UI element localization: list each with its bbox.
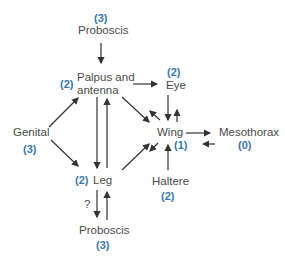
wing-level: (1) xyxy=(174,139,187,152)
palpus-label-line1: Palpus and xyxy=(77,71,135,84)
genital-level: (3) xyxy=(23,143,36,156)
palpus-level: (2) xyxy=(60,78,73,91)
wing-label: Wing xyxy=(157,126,183,139)
arrow-genital-to-palpus xyxy=(49,98,78,127)
leg-level: (2) xyxy=(75,174,88,187)
haltere-level: (2) xyxy=(161,190,174,203)
arrow-palpus-to-wing xyxy=(122,97,149,122)
arrow-wing-to-leg xyxy=(150,143,158,151)
eye-level: (2) xyxy=(167,66,180,79)
proboscis-bottom-label: Proboscis xyxy=(79,224,130,237)
arrow-genital-to-leg xyxy=(51,140,78,166)
mesothorax-label: Mesothorax xyxy=(219,126,279,139)
proboscis-top-label: Proboscis xyxy=(78,24,129,37)
proboscis-bottom-level: (3) xyxy=(96,239,109,252)
arrow-leg-to-wing xyxy=(122,144,149,170)
question-mark: ? xyxy=(84,198,90,211)
genital-label: Genital xyxy=(13,126,49,139)
eye-label: Eye xyxy=(166,79,186,92)
mesothorax-level: (0) xyxy=(238,139,251,152)
haltere-label: Haltere xyxy=(152,175,189,188)
palpus-label-line2: antenna xyxy=(77,84,119,97)
leg-label: Leg xyxy=(93,174,112,187)
arrow-wing-to-palpus xyxy=(150,111,160,120)
